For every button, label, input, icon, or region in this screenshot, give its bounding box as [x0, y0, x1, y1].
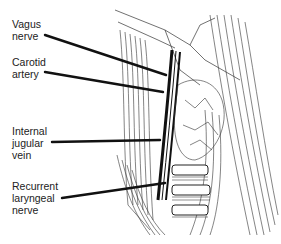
label-line: laryngeal: [12, 192, 58, 204]
label-line: artery: [12, 68, 46, 80]
label-recurrent-laryngeal-nerve: Recurrent laryngeal nerve: [12, 180, 58, 216]
label-line: jugular: [12, 137, 47, 149]
label-line: Vagus: [12, 18, 41, 30]
label-line: nerve: [12, 204, 58, 216]
label-internal-jugular-vein: Internal jugular vein: [12, 125, 47, 161]
label-line: Carotid: [12, 56, 46, 68]
label-line: vein: [12, 149, 47, 161]
label-carotid-artery: Carotid artery: [12, 56, 46, 80]
label-line: Internal: [12, 125, 47, 137]
label-vagus-nerve: Vagus nerve: [12, 18, 41, 42]
label-line: nerve: [12, 30, 41, 42]
label-line: Recurrent: [12, 180, 58, 192]
